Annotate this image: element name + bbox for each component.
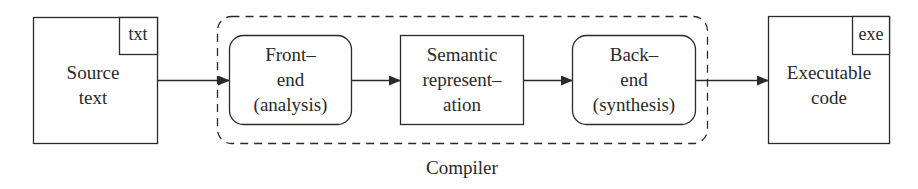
compiler-group-label: Compiler (400, 155, 524, 180)
front-end-line-2: end (229, 67, 352, 92)
semantic-line-1: Semantic (400, 42, 524, 67)
front-end-label: Front– end (analysis) (229, 42, 352, 117)
back-end-line-1: Back– (572, 42, 696, 67)
exe-tag-label: exe (852, 16, 890, 52)
executable-code-label: Executable code (768, 60, 890, 110)
txt-tag-label: txt (119, 16, 157, 52)
source-line-2: text (33, 85, 153, 110)
back-end-label: Back– end (synthesis) (572, 42, 696, 117)
front-end-line-3: (analysis) (229, 92, 352, 117)
back-end-line-2: end (572, 67, 696, 92)
semantic-representation-label: Semantic represent– ation (400, 42, 524, 117)
executable-line-2: code (768, 85, 890, 110)
source-line-1: Source (33, 60, 153, 85)
semantic-line-2: represent– (400, 67, 524, 92)
source-text-label: Source text (33, 60, 153, 110)
semantic-line-3: ation (400, 92, 524, 117)
front-end-line-1: Front– (229, 42, 352, 67)
back-end-line-3: (synthesis) (572, 92, 696, 117)
executable-line-1: Executable (768, 60, 890, 85)
